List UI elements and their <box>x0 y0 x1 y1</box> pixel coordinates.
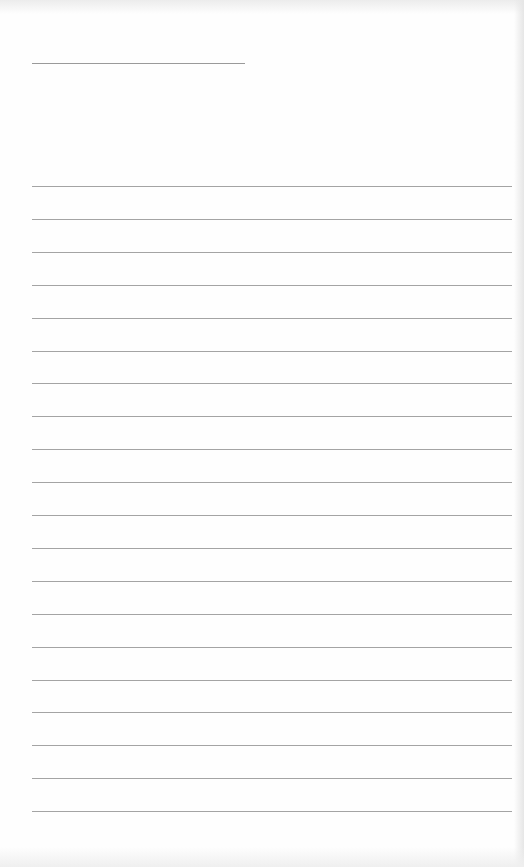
ruled-line <box>32 252 512 253</box>
ruled-line <box>32 811 512 812</box>
ruled-line <box>32 219 512 220</box>
ruled-lines <box>0 0 524 867</box>
ruled-line <box>32 285 512 286</box>
ruled-line <box>32 778 512 779</box>
ruled-line <box>32 186 512 187</box>
scan-bottom-edge <box>0 847 524 867</box>
ruled-line <box>32 581 512 582</box>
ruled-line <box>32 712 512 713</box>
ruled-line <box>32 548 512 549</box>
ruled-line <box>32 318 512 319</box>
ruled-line <box>32 515 512 516</box>
ruled-line <box>32 680 512 681</box>
ruled-line <box>32 383 512 384</box>
ruled-line <box>32 416 512 417</box>
ruled-line <box>32 647 512 648</box>
ruled-line <box>32 351 512 352</box>
scan-right-shadow <box>514 0 524 867</box>
ruled-line <box>32 449 512 450</box>
ruled-line <box>32 482 512 483</box>
lined-paper-page <box>0 0 524 867</box>
ruled-line <box>32 614 512 615</box>
ruled-line <box>32 745 512 746</box>
